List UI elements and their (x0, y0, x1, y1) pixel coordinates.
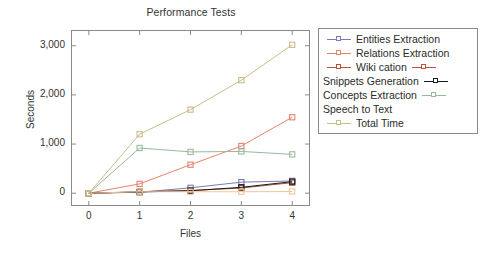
y-tick-label: 0 (13, 186, 65, 197)
performance-tests-chart: Performance Tests Seconds Files 01,0002,… (0, 0, 482, 272)
legend-label: Concepts Extraction (323, 88, 417, 102)
legend-label: Total Time (356, 116, 404, 130)
x-tick-label: 3 (231, 210, 251, 221)
legend-label: Speech to Text (323, 102, 392, 116)
legend-label: Relations Extraction (356, 46, 449, 60)
x-axis-title: Files (71, 228, 310, 239)
legend-item-snippets-generation[interactable]: Snippets Generation (323, 74, 473, 88)
legend-key-icon (327, 118, 351, 128)
x-tick-label: 4 (282, 210, 302, 221)
series-total-time (86, 42, 295, 196)
legend-item-concepts-extraction[interactable]: Concepts Extraction (323, 88, 473, 102)
x-tick-label: 2 (181, 210, 201, 221)
legend-label: Entities Extraction (356, 32, 440, 46)
legend-key-icon (327, 48, 351, 58)
legend-item-wiki-cation[interactable]: Wiki cation (323, 60, 473, 74)
x-tick-label: 1 (130, 210, 150, 221)
legend-item-relations-extraction[interactable]: Relations Extraction (323, 46, 473, 60)
legend-key-icon (327, 34, 351, 44)
legend-key-icon (422, 90, 446, 100)
plot-canvas (71, 30, 310, 206)
y-tick-label: 2,000 (13, 88, 65, 99)
chart-legend: Entities ExtractionRelations ExtractionW… (318, 28, 478, 134)
legend-key-icon (412, 62, 436, 72)
legend-key-icon (327, 62, 351, 72)
x-tick-label: 0 (79, 210, 99, 221)
legend-item-total-time[interactable]: Total Time (323, 116, 473, 130)
chart-title: Performance Tests (71, 6, 311, 18)
legend-key-icon (424, 76, 448, 86)
legend-label: Wiki cation (356, 60, 407, 74)
y-tick-label: 1,000 (13, 137, 65, 148)
y-tick-label: 3,000 (13, 39, 65, 50)
legend-item-speech-to-text[interactable]: Speech to Text (323, 102, 473, 116)
legend-label: Snippets Generation (323, 74, 419, 88)
legend-item-entities-extraction[interactable]: Entities Extraction (323, 32, 473, 46)
series-relations-extraction (86, 115, 295, 196)
